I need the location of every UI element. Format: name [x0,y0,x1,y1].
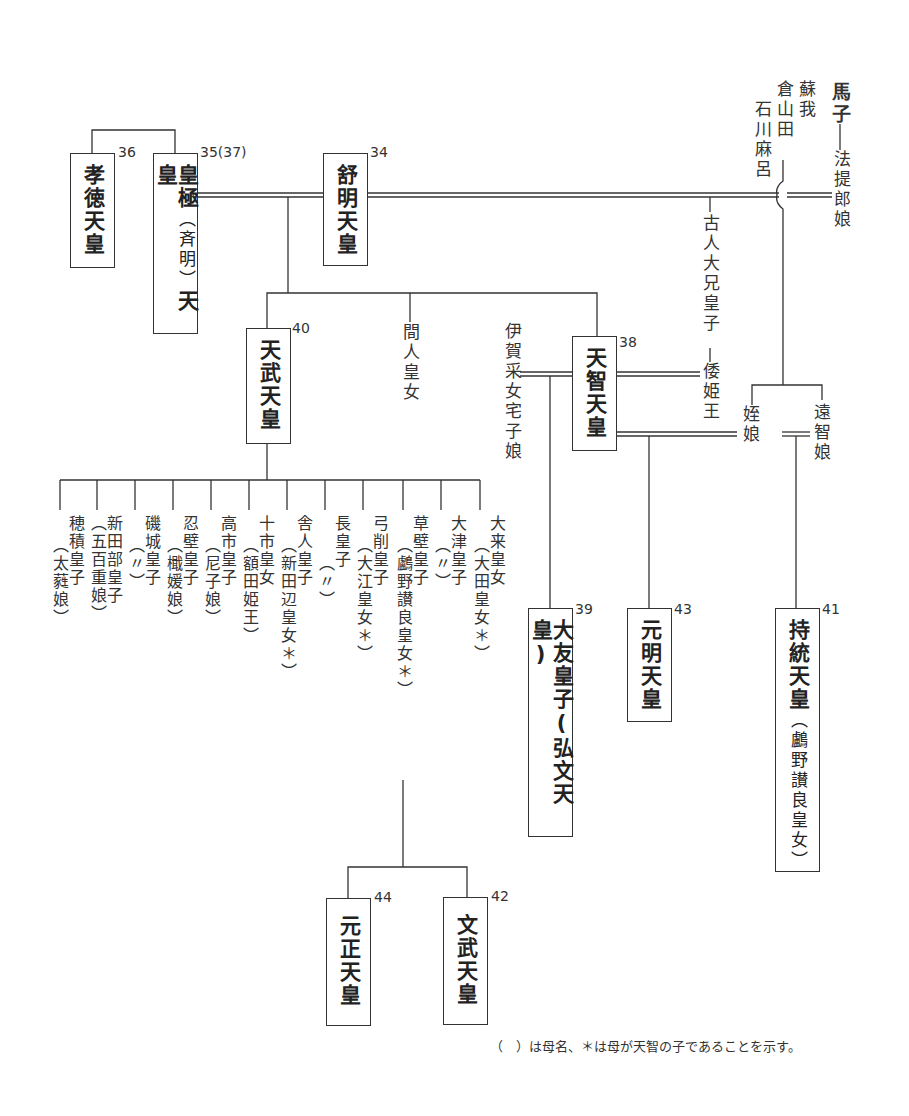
emperor-number: 41 [822,601,840,617]
emperor-name: 皇極（斉明）天皇 [155,164,197,333]
emperor-name: 天武天皇 [258,339,279,431]
tenmu-child: 新田部皇子（五百重娘） [89,515,121,623]
person-umako: 馬子 [830,82,849,126]
person-iga: 伊賀采女宅子娘 [503,322,520,462]
emperor-kotoku-box: 孝徳天皇 [70,153,115,268]
tenmu-child: 高市皇子（尼子娘） [203,515,235,627]
emperor-number: 34 [370,144,388,160]
emperor-gensho-box: 元正天皇 [326,898,371,1026]
emperor-number: 39 [575,601,593,617]
emperor-kogyoku-box: 皇極（斉明）天皇 [153,153,198,334]
tenmu-child: 弓削皇子（大江皇女＊） [355,515,387,663]
emperor-number: 44 [374,889,392,905]
emperor-monmu-box: 文武天皇 [443,897,488,1025]
tenmu-child: 大津皇子（〃） [433,515,465,591]
person-hashihito: 間人皇女 [401,323,418,403]
emperor-number: 36 [118,144,136,160]
person-yamatohime: 倭姫王 [701,362,718,422]
emperor-name: 舒明天皇 [335,164,356,256]
emperor-name: 孝徳天皇 [82,164,103,256]
emperor-number: 43 [674,601,692,617]
person-mei: 姪娘 [741,405,758,445]
tenmu-child: 磯城皇子（〃） [127,515,159,591]
person-kurayamada: 倉山田 [775,80,792,140]
tenmu-child: 大来皇女（大田皇女＊） [472,515,504,663]
emperor-name: 元正天皇 [338,915,359,1007]
emperor-tenji-box: 天智天皇 [572,336,617,451]
tenmu-child: 忍壁皇子（檝媛娘） [165,515,197,627]
person-ochi: 遠智娘 [812,403,829,463]
emperor-jito-box: 持統天皇（鸕野讃良皇女） [775,608,820,872]
tenmu-child: 草壁皇子（鸕野讃良皇女＊） [395,515,427,699]
person-soga: 蘇我 [797,80,814,120]
person-ishikawamaro: 石川麻呂 [753,100,770,180]
emperor-number: 40 [292,320,310,336]
person-hotei: 法提郎娘 [832,150,849,230]
emperor-name: 大友皇子(弘文天皇) [530,619,572,836]
tenmu-child: 穂積皇子（太蕤娘） [51,515,83,627]
person-furuhito: 古人大兄皇子 [701,214,718,334]
emperor-number: 35(37) [200,144,247,160]
tenmu-child: 十市皇女（額田姫王） [241,515,273,645]
emperor-tenmu-box: 天武天皇 [246,328,291,444]
emperor-jomei-box: 舒明天皇 [323,153,368,266]
emperor-number: 42 [491,888,509,904]
emperor-name: 持統天皇（鸕野讃良皇女） [787,619,808,871]
emperor-name: 天智天皇 [584,347,605,439]
emperor-otomo-box: 大友皇子(弘文天皇) [528,608,573,837]
legend-note: （ ）は母名、＊は母が天智の子であることを示す。 [490,1036,801,1055]
emperor-name: 元明天皇 [639,619,660,711]
tenmu-child: 長皇子（〃） [317,515,349,609]
emperor-genmei-box: 元明天皇 [627,608,672,722]
emperor-number: 38 [619,334,637,350]
tenmu-child: 舎人皇子（新田辺皇女＊） [279,515,311,681]
emperor-name: 文武天皇 [455,914,476,1006]
